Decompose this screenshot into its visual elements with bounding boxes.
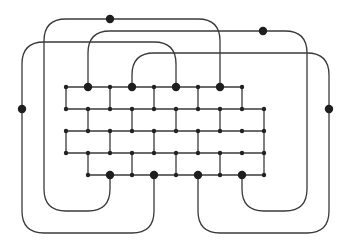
outer-path-3 [22,42,176,233]
path-dot [259,27,267,35]
grid-node [86,151,90,155]
grid-node [152,129,156,133]
grid-node [152,107,156,111]
grid-node [108,151,112,155]
grid-node [152,85,156,89]
terminal-node [106,171,114,179]
grid-node [196,151,200,155]
grid-node [174,173,178,177]
path-dot [325,105,333,113]
terminal-node [84,83,92,91]
grid-node [130,151,134,155]
grid-graph-diagram [0,0,351,249]
grid-node [262,129,266,133]
grid-node [64,129,68,133]
grid-node [108,85,112,89]
grid-node [218,129,222,133]
grid-node [64,151,68,155]
grid-node [196,129,200,133]
terminal-node [150,171,158,179]
grid-node [130,129,134,133]
grid-node [218,173,222,177]
outer-path-4 [132,53,329,233]
path-dot [106,15,114,23]
grid-node [108,129,112,133]
grid-node [174,151,178,155]
terminal-node [172,83,180,91]
grid-node [218,151,222,155]
path-dot [18,105,26,113]
grid-node [64,107,68,111]
grid-node [240,85,244,89]
grid-node [196,107,200,111]
grid-node [64,85,68,89]
grid-node [262,173,266,177]
grid-node [86,107,90,111]
grid-node [218,107,222,111]
grid-node [240,151,244,155]
terminal-node [194,171,202,179]
grid-node [240,107,244,111]
grid-node [262,151,266,155]
terminal-node [216,83,224,91]
grid-node [108,107,112,111]
terminal-node [238,171,246,179]
grid-node [152,151,156,155]
grid-edges [66,87,264,175]
grid-node [130,107,134,111]
grid-node [174,129,178,133]
grid-node [86,173,90,177]
terminal-node [128,83,136,91]
grid-node [196,85,200,89]
grid-node [130,173,134,177]
grid-node [86,129,90,133]
grid-node [262,107,266,111]
grid-node [174,107,178,111]
grid-node [240,129,244,133]
